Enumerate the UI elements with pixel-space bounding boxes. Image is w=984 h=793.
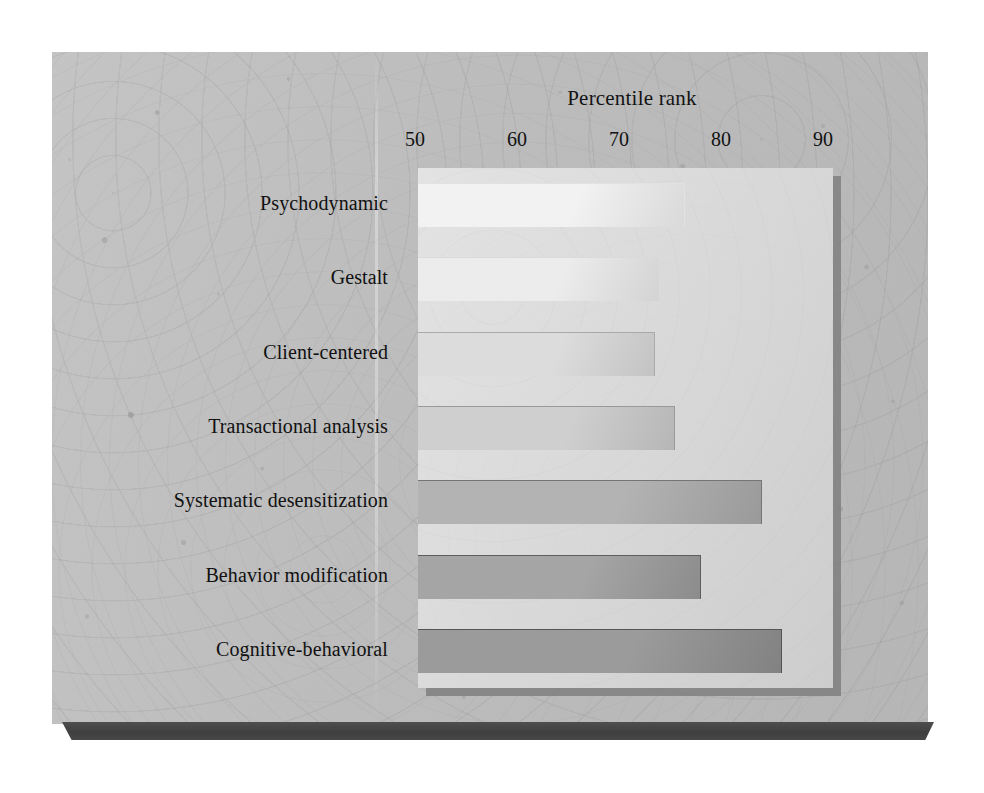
slab-bottom-edge (62, 722, 934, 740)
bar[interactable] (418, 629, 782, 673)
bar-right-edge (674, 406, 675, 450)
bar-right-edge (781, 629, 782, 673)
category-label: Client-centered (263, 341, 388, 364)
x-tick-label: 50 (387, 128, 443, 151)
bar[interactable] (418, 183, 685, 227)
bar-top-edge (418, 555, 701, 556)
bar[interactable] (418, 555, 701, 599)
x-tick-label: 60 (489, 128, 545, 151)
bar-top-edge (418, 629, 782, 630)
bar[interactable] (418, 480, 762, 524)
category-label: Behavior modification (205, 564, 388, 587)
category-label: Transactional analysis (208, 415, 388, 438)
category-label: Psychodynamic (260, 192, 388, 215)
bar[interactable] (418, 332, 655, 376)
bar-top-edge (418, 406, 675, 407)
bar-right-edge (761, 480, 762, 524)
axis-title-text: Percentile rank (567, 86, 697, 110)
x-tick-label: 90 (795, 128, 851, 151)
bar-top-edge (418, 480, 762, 481)
figure-canvas: Percentile rank 5060708090 Psychodynamic… (0, 0, 984, 793)
bar-fill (418, 629, 782, 673)
bar-right-edge (700, 555, 701, 599)
bar-fill (418, 406, 675, 450)
slab-seam-line (375, 52, 378, 724)
category-label: Systematic desensitization (174, 489, 388, 512)
bar-top-edge (418, 332, 655, 333)
bar-right-edge (659, 257, 660, 301)
bar[interactable] (418, 406, 675, 450)
x-tick-label: 80 (693, 128, 749, 151)
bar-right-edge (684, 183, 685, 227)
plot-panel (418, 168, 833, 688)
x-tick-label: 70 (591, 128, 647, 151)
bar-fill (418, 183, 685, 227)
category-label: Cognitive-behavioral (216, 638, 388, 661)
bar-fill (418, 480, 762, 524)
bar[interactable] (418, 257, 660, 301)
axis-title: Percentile rank (0, 86, 984, 111)
bar-fill (418, 555, 701, 599)
bar-top-edge (418, 183, 685, 184)
bar-fill (418, 332, 655, 376)
bar-top-edge (418, 257, 660, 258)
bar-right-edge (654, 332, 655, 376)
bar-fill (418, 257, 660, 301)
category-label: Gestalt (331, 266, 388, 289)
